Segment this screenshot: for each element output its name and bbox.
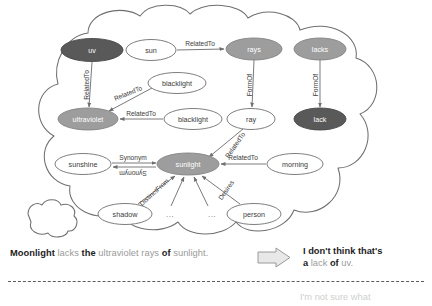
reply-text: I don't think that's a lack of uv. xyxy=(303,245,429,270)
reply-token-4: uv. xyxy=(341,258,353,268)
right-arrow-icon xyxy=(258,248,290,267)
reply-token-0: I don't think that's xyxy=(303,246,382,256)
reply-line-1: I don't think that's xyxy=(303,245,429,257)
clipped-tail-text: I'm not sure what xyxy=(300,291,432,304)
section-divider xyxy=(8,281,424,282)
reply-token-1: a xyxy=(303,258,308,268)
figure-canvas: RelatedTo RelatedTo RelatedTo RelatedTo … xyxy=(0,0,432,306)
reply-token-3: of xyxy=(330,258,339,268)
reply-token-2: lack xyxy=(311,258,328,268)
reply-line-2: a lack of uv. xyxy=(303,257,429,269)
